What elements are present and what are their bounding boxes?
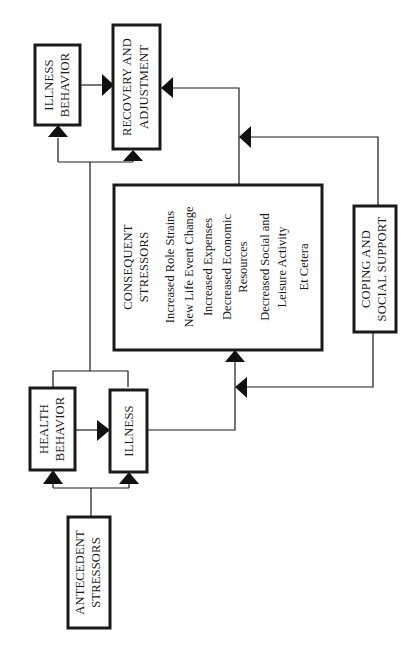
consequent-item: Et Cetera — [297, 243, 311, 290]
node-consequent-stressors: CONSEQUENT STRESSORS Increased Role Stra… — [114, 185, 322, 350]
consequent-item: New Life Event Change — [182, 206, 196, 328]
consequent-item: Increased Expenses — [201, 218, 215, 316]
connector-antecedent — [43, 470, 139, 517]
arrow-coping-to-lower-link-icon — [235, 377, 247, 398]
antecedent-label-line1: ANTECEDENT — [73, 530, 87, 615]
coping-label-line2: SOCIAL SUPPORT — [375, 216, 389, 321]
connector-ib-recovery — [80, 74, 114, 96]
connector-hb-illness — [75, 420, 110, 441]
stress-process-diagram: ANTECEDENT STRESSORS HEALTH BEHAVIOR ILL… — [0, 0, 419, 664]
node-illness: ILLNESS — [110, 390, 147, 472]
consequent-item: Decreased Economic — [220, 214, 234, 320]
node-health-behavior: HEALTH BEHAVIOR — [30, 388, 75, 470]
illness-label: ILLNESS — [122, 405, 136, 456]
node-recovery-adjustment: RECOVERY AND ADJUSTMENT — [113, 25, 160, 149]
consequent-item: Decreased Social and — [258, 212, 272, 320]
consequent-title-line1: CONSEQUENT — [121, 224, 135, 309]
coping-label-line1: COPING AND — [359, 230, 373, 308]
health-behavior-label-line1: HEALTH — [37, 404, 51, 454]
arrow-to-illness-icon — [119, 472, 139, 484]
node-illness-behavior: ILLNESS BEHAVIOR — [35, 45, 80, 125]
node-coping-social-support: COPING AND SOCIAL SUPPORT — [354, 206, 396, 332]
connector-illness-consequent — [147, 350, 245, 430]
antecedent-label-line2: STRESSORS — [89, 537, 103, 608]
connector-consequent-recovery — [161, 77, 239, 184]
consequent-item: Increased Role Strains — [163, 211, 177, 324]
node-antecedent-stressors: ANTECEDENT STRESSORS — [68, 517, 110, 628]
arrow-coping-to-upper-link-icon — [239, 126, 251, 148]
health-behavior-label-line2: BEHAVIOR — [53, 396, 67, 461]
arrow-hb-to-illness-icon — [97, 420, 110, 441]
arrow-to-health-behavior-icon — [43, 470, 63, 484]
arrow-to-recovery-bottom-icon — [123, 150, 143, 161]
arrow-to-recovery-right-icon — [161, 77, 173, 98]
arrow-to-consequent-icon — [225, 350, 245, 362]
consequent-item: Resources — [236, 241, 250, 293]
consequent-item: Leisure Activity — [275, 226, 289, 308]
consequent-title-line2: STRESSORS — [137, 232, 151, 303]
illness-behavior-label-line2: BEHAVIOR — [58, 52, 72, 117]
recovery-label-line1: RECOVERY AND — [120, 38, 134, 136]
recovery-label-line2: ADJUSTMENT — [137, 45, 151, 129]
arrow-to-illness-behavior-icon — [48, 125, 68, 137]
illness-behavior-label-line1: ILLNESS — [42, 59, 56, 110]
